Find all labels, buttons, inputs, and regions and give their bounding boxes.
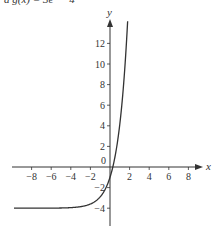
- origin-label: 0: [101, 155, 106, 166]
- x-tick-label: 8: [186, 171, 191, 182]
- y-tick-label: 10: [95, 59, 105, 70]
- y-axis-arrow-icon: [107, 19, 113, 27]
- x-axis-label: x: [205, 160, 211, 172]
- x-tick-label: −6: [46, 171, 57, 182]
- function-plot: xy0 −8−6−4−22468−4−224681012: [0, 0, 220, 234]
- x-tick-label: 2: [127, 171, 132, 182]
- x-tick-label: −4: [65, 171, 76, 182]
- y-tick-label: 6: [100, 100, 105, 111]
- y-tick-label: 2: [100, 141, 105, 152]
- y-tick-label: 8: [100, 79, 105, 90]
- axes: xy0: [12, 6, 211, 226]
- x-axis-arrow-icon: [195, 164, 203, 170]
- x-tick-label: −8: [26, 171, 37, 182]
- x-tick-label: 4: [147, 171, 152, 182]
- y-axis-label: y: [106, 6, 112, 18]
- y-tick-label: 12: [95, 38, 105, 49]
- x-tick-label: −2: [85, 171, 96, 182]
- ticks: −8−6−4−22468−4−224681012: [26, 38, 191, 214]
- y-tick-label: 4: [100, 120, 105, 131]
- x-tick-label: 6: [166, 171, 171, 182]
- y-tick-label: −4: [94, 203, 105, 214]
